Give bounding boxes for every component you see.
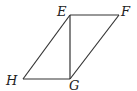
- parallelogram-diagram: E F H G: [0, 0, 137, 91]
- segment-he: [23, 15, 70, 79]
- label-e: E: [56, 4, 67, 19]
- label-f: F: [120, 4, 131, 19]
- segment-fg: [70, 15, 119, 79]
- label-h: H: [5, 73, 18, 88]
- label-g: G: [69, 78, 79, 91]
